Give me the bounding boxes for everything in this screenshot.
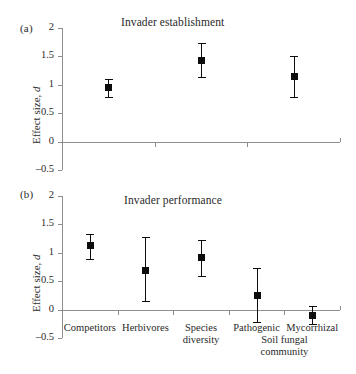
data-point-marker <box>309 312 316 319</box>
y-axis-line <box>62 28 63 170</box>
data-point-marker <box>105 84 112 91</box>
panel-b-plot-area: 21.510.50–0.5CompetitorsHerbivoresSpecie… <box>0 182 356 374</box>
group-label-line: Soil fungal <box>234 334 334 346</box>
x-axis-group-label: Soil fungalcommunity <box>234 334 334 358</box>
y-axis-tick-label: –0.5 <box>18 163 54 174</box>
x-axis-tick <box>229 311 230 315</box>
error-bar-cap-upper <box>142 237 150 238</box>
error-bar-cap-lower <box>198 276 206 277</box>
error-bar-cap-lower <box>86 259 94 260</box>
x-axis-category-label: Mycorrhizal <box>270 322 354 334</box>
y-axis-tick <box>58 281 62 282</box>
y-axis-tick-label: 1 <box>18 78 54 89</box>
data-point-marker <box>87 242 94 249</box>
y-axis-tick-label: 1.5 <box>18 217 54 228</box>
x-axis-tick <box>284 311 285 315</box>
y-axis-tick <box>58 56 62 57</box>
y-axis-tick <box>58 253 62 254</box>
panel-a-plot-area: 21.510.50–0.5 <box>0 0 356 182</box>
error-bar-cap-lower <box>142 301 150 302</box>
data-point-marker <box>198 57 205 64</box>
error-bar-cap-upper <box>309 306 317 307</box>
figure-container: (a) Invader establishment Effect size, d… <box>0 0 356 374</box>
y-axis-tick <box>58 224 62 225</box>
error-bar-cap-lower <box>198 77 206 78</box>
y-axis-tick <box>58 85 62 86</box>
y-axis-tick-label: 0 <box>18 303 54 314</box>
y-axis-tick-label: 1.5 <box>18 49 54 60</box>
data-point-marker <box>291 73 298 80</box>
panel-a: (a) Invader establishment Effect size, d… <box>0 0 356 182</box>
category-label-line: diversity <box>159 334 243 346</box>
y-axis-tick-label: 0.5 <box>18 274 54 285</box>
error-bar-cap-upper <box>290 56 298 57</box>
y-axis-tick-label: 2 <box>18 21 54 32</box>
y-axis-tick <box>58 338 62 339</box>
y-axis-line <box>62 196 63 338</box>
y-axis-tick <box>58 113 62 114</box>
x-axis-tick <box>155 143 156 147</box>
panel-b: (b) Invader performance Effect size, d 2… <box>0 182 356 374</box>
data-point-marker <box>198 254 205 261</box>
data-point-marker <box>142 267 149 274</box>
y-axis-tick-label: 1 <box>18 246 54 257</box>
y-axis-tick-label: 0.5 <box>18 106 54 117</box>
x-axis-tick <box>247 143 248 147</box>
x-axis-zero-line <box>62 142 340 143</box>
error-bar-cap-lower <box>290 97 298 98</box>
error-bar-cap-lower <box>105 97 113 98</box>
error-bar-cap-upper <box>198 240 206 241</box>
y-axis-tick-label: 0 <box>18 135 54 146</box>
y-axis-tick-label: 2 <box>18 189 54 200</box>
y-axis-tick <box>58 28 62 29</box>
error-bar-cap-upper <box>105 79 113 80</box>
y-axis-tick <box>58 170 62 171</box>
data-point-marker <box>254 292 261 299</box>
x-axis-tick <box>173 311 174 315</box>
error-bar-cap-upper <box>86 234 94 235</box>
x-axis-tick <box>118 311 119 315</box>
y-axis-tick <box>58 196 62 197</box>
group-label-line: community <box>234 346 334 358</box>
x-axis-tick <box>340 138 341 142</box>
x-axis-tick <box>340 306 341 310</box>
error-bar-cap-upper <box>198 43 206 44</box>
x-axis-zero-line <box>62 310 340 311</box>
error-bar-cap-upper <box>253 268 261 269</box>
category-label-line: Mycorrhizal <box>270 322 354 334</box>
